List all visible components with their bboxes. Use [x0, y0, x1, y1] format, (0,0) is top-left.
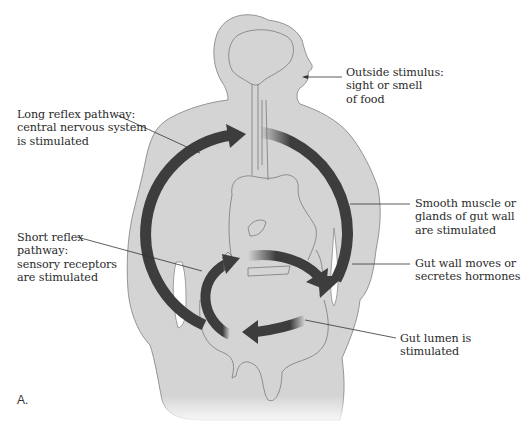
label-short-reflex-pathway: Short reflex pathway: sensory receptors … [17, 231, 117, 285]
label-long-reflex-pathway: Long reflex pathway: central nervous sys… [17, 108, 147, 148]
label-outside-stimulus: Outside stimulus: sight or smell of food [346, 66, 444, 106]
label-gut-wall-moves: Gut wall moves or secretes hormones [415, 257, 521, 284]
panel-label: A. [17, 393, 28, 407]
label-gut-lumen: Gut lumen is stimulated [400, 332, 471, 359]
label-smooth-muscle: Smooth muscle or glands of gut wall are … [415, 197, 516, 237]
